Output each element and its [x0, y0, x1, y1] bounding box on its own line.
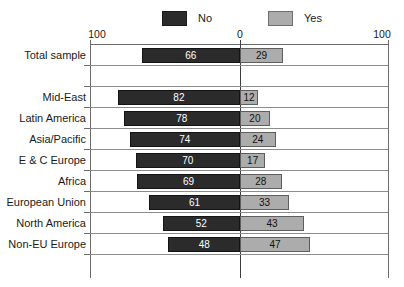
- chart-row: European Union6133: [0, 192, 404, 213]
- bar-no: 61: [149, 195, 240, 210]
- chart-row: Asia/Pacific7424: [0, 129, 404, 150]
- row-label: Latin America: [19, 111, 86, 125]
- bar-yes: 33: [240, 195, 289, 210]
- chart-row: Africa6928: [0, 171, 404, 192]
- bar-no: 52: [163, 216, 240, 231]
- legend-label-no: No: [198, 12, 212, 25]
- axis-tick-labels: 100 0 100: [0, 28, 404, 42]
- axis-label-left-100: 100: [88, 28, 106, 40]
- row-separator: [90, 254, 388, 255]
- legend-label-yes: Yes: [304, 12, 322, 25]
- row-label: Total sample: [24, 48, 86, 62]
- row-label: Asia/Pacific: [29, 132, 86, 146]
- legend-swatch-no-icon: [162, 11, 187, 26]
- row-label: North America: [16, 216, 86, 230]
- bar-yes: 47: [240, 237, 310, 252]
- row-label: Mid-East: [43, 90, 86, 104]
- bar-yes: 20: [240, 111, 270, 126]
- bar-no: 69: [137, 174, 240, 189]
- legend-entry-no: No: [162, 10, 212, 26]
- chart-row: Total sample6629: [0, 45, 404, 66]
- bar-no: 78: [124, 111, 240, 126]
- bar-yes: 43: [240, 216, 304, 231]
- bar-no: 82: [118, 90, 240, 105]
- bar-no: 66: [142, 48, 240, 63]
- bar-yes: 28: [240, 174, 282, 189]
- row-label: European Union: [6, 195, 86, 209]
- bar-yes: 17: [240, 153, 265, 168]
- row-label: E & C Europe: [19, 153, 86, 167]
- legend-entry-yes: Yes: [268, 10, 322, 26]
- legend-swatch-yes-icon: [268, 11, 293, 26]
- chart-legend: No Yes: [0, 10, 404, 30]
- chart-row: North America5243: [0, 213, 404, 234]
- row-label: Africa: [58, 174, 86, 188]
- axis-label-zero: 0: [237, 28, 243, 40]
- row-label: Non-EU Europe: [8, 237, 86, 251]
- chart-row: Latin America7820: [0, 108, 404, 129]
- chart-row-spacer: [0, 66, 404, 87]
- bar-no: 48: [168, 237, 240, 252]
- bar-yes: 29: [240, 48, 283, 63]
- chart-row: Non-EU Europe4847: [0, 234, 404, 255]
- bar-yes: 12: [240, 90, 258, 105]
- row-axis-tick-icon: [84, 254, 90, 255]
- chart-row: E & C Europe7017: [0, 150, 404, 171]
- bar-yes: 24: [240, 132, 276, 147]
- chart-row: Mid-East8212: [0, 87, 404, 108]
- bar-no: 70: [136, 153, 240, 168]
- axis-label-right-100: 100: [373, 28, 391, 40]
- bar-no: 74: [130, 132, 240, 147]
